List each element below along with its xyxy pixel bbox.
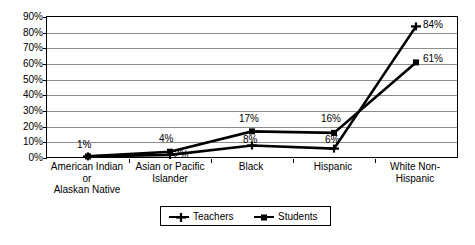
y-tick-10: 10% — [23, 137, 43, 147]
marker-teachers-0 — [83, 152, 93, 160]
y-tick-50: 50% — [23, 75, 43, 85]
data-label-teachers-2: 8% — [243, 135, 257, 145]
x-axis-tick-labels: American Indian or Alaskan Native Asian … — [46, 161, 458, 205]
marker-teachers-3 — [329, 145, 339, 153]
data-label-students-0: 1% — [77, 140, 91, 150]
legend-marker-teachers-cross-icon — [169, 211, 189, 223]
y-tick-20: 20% — [23, 122, 43, 132]
data-label-students-2: 17% — [239, 114, 259, 124]
y-tick-70: 70% — [23, 43, 43, 53]
x-label-line: Alaskan Native — [29, 184, 145, 196]
data-label-students-1: 4% — [159, 134, 173, 144]
y-axis-tick-labels: 90% 80% 70% 60% 50% 40% 30% 20% 10% 0% — [0, 0, 43, 245]
marker-teachers-4 — [411, 22, 421, 30]
legend-marker-students-square-icon — [254, 211, 274, 223]
data-label-teachers-1: 2% — [174, 150, 188, 160]
legend-item-teachers[interactable]: Teachers — [169, 210, 234, 224]
data-label-teachers-4: 84% — [423, 20, 443, 30]
y-tick-40: 40% — [23, 90, 43, 100]
data-label-teachers-3: 6% — [325, 135, 339, 145]
plot-area: 1% 4% 2% 17% 8% 16% 6% 84% 61% — [46, 16, 458, 158]
y-tick-60: 60% — [23, 59, 43, 69]
x-label-line: Hispanic — [365, 173, 465, 185]
y-tick-90: 90% — [23, 12, 43, 22]
legend-label-teachers: Teachers — [193, 211, 234, 223]
marker-students-4 — [413, 59, 419, 65]
legend-item-students[interactable]: Students — [254, 210, 317, 224]
data-label-students-4: 61% — [423, 54, 443, 64]
y-tick-80: 80% — [23, 28, 43, 38]
legend-label-students: Students — [278, 211, 317, 223]
data-label-students-3: 16% — [321, 114, 341, 124]
x-label-line: White Non- — [365, 161, 465, 173]
line-chart: 90% 80% 70% 60% 50% 40% 30% 20% 10% 0% — [0, 0, 475, 245]
chart-legend: Teachers Students — [160, 206, 331, 226]
y-tick-30: 30% — [23, 106, 43, 116]
x-label-white-non-hispanic: White Non- Hispanic — [365, 161, 465, 184]
x-label-line: Islander — [112, 173, 228, 185]
